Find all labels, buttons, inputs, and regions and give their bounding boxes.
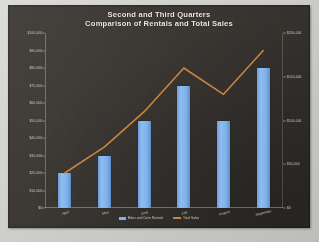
- legend-label-total-sales: Total Sales: [183, 216, 199, 220]
- legend-swatch-bar-icon: [119, 217, 126, 220]
- y-tick-mark-left: [42, 103, 45, 104]
- y-tick-label-right: $200,000: [287, 31, 302, 35]
- y-tick-mark-left: [42, 173, 45, 174]
- y-tick-mark-left: [42, 208, 45, 209]
- y-tick-mark-right: [283, 120, 286, 121]
- y-tick-mark-left: [42, 155, 45, 156]
- photo-frame: Second and Third Quarters Comparison of …: [0, 0, 319, 242]
- y-tick-label-right: $50,000: [287, 162, 300, 166]
- y-tick-label-left: $100,000: [27, 31, 42, 35]
- y-tick-label-left: $90,000: [29, 49, 42, 53]
- bar-september: [257, 68, 270, 208]
- y-tick-label-right: $100,000: [287, 119, 302, 123]
- y-axis-left: [45, 33, 46, 208]
- y-tick-mark-left: [42, 50, 45, 51]
- chart-legend: Bikes and Carts Rentals Total Sales: [8, 216, 310, 220]
- y-tick-label-left: $0: [38, 206, 42, 210]
- bar-may: [98, 156, 111, 209]
- y-tick-mark-right: [283, 208, 286, 209]
- y-tick-label-left: $50,000: [29, 119, 42, 123]
- y-tick-mark-left: [42, 68, 45, 69]
- y-tick-label-right: $0: [287, 206, 291, 210]
- x-tick-label: June: [141, 210, 149, 216]
- y-tick-mark-right: [283, 164, 286, 165]
- x-tick-label: July: [181, 210, 188, 215]
- y-tick-mark-right: [283, 33, 286, 34]
- legend-swatch-line-icon: [173, 217, 181, 218]
- legend-item-total-sales: Total Sales: [173, 216, 199, 220]
- chart-title: Second and Third Quarters: [8, 10, 310, 19]
- y-tick-label-left: $60,000: [29, 101, 42, 105]
- y-tick-mark-left: [42, 33, 45, 34]
- line-series: [45, 33, 283, 208]
- legend-item-rentals: Bikes and Carts Rentals: [119, 216, 163, 220]
- x-axis: [45, 207, 283, 208]
- y-tick-mark-left: [42, 85, 45, 86]
- y-tick-mark-right: [283, 76, 286, 77]
- x-tick-label: May: [101, 210, 108, 215]
- chart-panel: Second and Third Quarters Comparison of …: [8, 5, 310, 228]
- bar-july: [177, 86, 190, 209]
- y-tick-label-left: $30,000: [29, 154, 42, 158]
- y-tick-label-left: $40,000: [29, 136, 42, 140]
- y-tick-label-left: $10,000: [29, 189, 42, 193]
- y-tick-mark-left: [42, 190, 45, 191]
- y-tick-label-left: $70,000: [29, 84, 42, 88]
- y-tick-label-left: $20,000: [29, 171, 42, 175]
- bar-april: [58, 173, 71, 208]
- x-tick-label: April: [62, 210, 70, 216]
- plot-area: $0$10,000$20,000$30,000$40,000$50,000$60…: [45, 33, 283, 208]
- bar-august: [217, 121, 230, 209]
- chart-subtitle: Comparison of Rentals and Total Sales: [8, 19, 310, 28]
- bar-june: [138, 121, 151, 209]
- legend-label-rentals: Bikes and Carts Rentals: [128, 216, 163, 220]
- y-tick-label-right: $150,000: [287, 75, 302, 79]
- y-tick-mark-left: [42, 120, 45, 121]
- y-tick-mark-left: [42, 138, 45, 139]
- y-tick-label-left: $80,000: [29, 66, 42, 70]
